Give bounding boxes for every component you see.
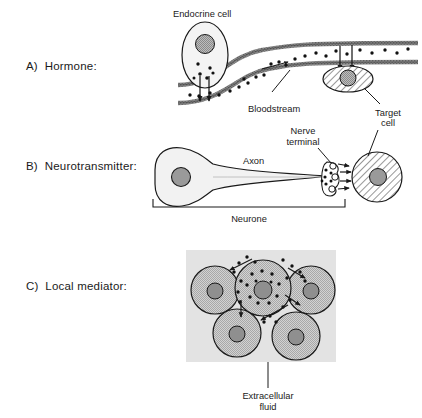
label-extracellular-fluid-line1: Extracellular: [242, 391, 293, 401]
label-nerve-terminal-line1: Nerve: [291, 126, 316, 136]
target-cell-hormone: [323, 66, 373, 92]
endocrine-cell-nucleus: [196, 35, 215, 54]
local-target-cell-bottom-right: [272, 312, 320, 360]
label-target-cell-a-line2: cell: [381, 118, 395, 128]
nerve-terminal: [321, 162, 339, 196]
cell-signalling-figure: A) Hormone: B) Neurotransmitter: C) Loca…: [0, 0, 422, 418]
diagram-artwork: Endocrine cell Bloodstream Target cell: [0, 0, 422, 418]
label-bloodstream: Bloodstream: [248, 104, 300, 114]
label-target-cell-a-line1: Target: [375, 108, 401, 118]
panel-a-hormone: Endocrine cell Bloodstream Target cell: [173, 9, 418, 128]
synaptic-arrows: [338, 164, 351, 189]
endocrine-cell: [182, 22, 228, 88]
local-target-cell-bottom-left: [213, 309, 261, 357]
panel-c-local-mediator: Extracellular fluid: [186, 250, 336, 412]
local-target-cell-top-right: [287, 266, 335, 314]
label-extracellular-fluid-line2: fluid: [259, 402, 276, 412]
bloodstream-leader-line: [272, 70, 290, 92]
local-target-cell-top-left: [191, 266, 239, 314]
panel-b-neurotransmitter: Axon Nerve terminal Neurone: [153, 126, 402, 224]
label-endocrine-cell: Endocrine cell: [173, 9, 231, 19]
local-source-cell-nucleus: [254, 281, 272, 299]
target-cell-neuro-nucleus: [370, 169, 387, 186]
target-cell-nucleus: [340, 70, 356, 86]
label-neurone: Neurone: [231, 214, 267, 224]
target-cell-neuro: [352, 152, 402, 202]
label-nerve-terminal-line2: terminal: [286, 137, 319, 147]
neurone-nucleus: [172, 168, 191, 187]
nerve-terminal-leader-line: [318, 148, 331, 163]
target-cell-leader-line: [364, 88, 380, 104]
label-axon: Axon: [243, 156, 264, 166]
